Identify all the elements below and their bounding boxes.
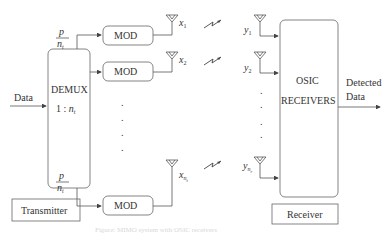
tx-antenna-label-1: x1 (178, 17, 186, 29)
svg-text:ynr: ynr (242, 160, 252, 174)
svg-text:MOD: MOD (114, 30, 137, 41)
svg-text:.: . (260, 85, 263, 96)
receiver-label-box: Receiver (272, 204, 338, 224)
rate-fraction-bottom: p nt (56, 170, 69, 194)
antenna-icon (166, 52, 178, 59)
detected-data-output: Detected Data (338, 77, 382, 107)
tx-antenna-label-2: x2 (178, 54, 186, 66)
antenna-icon (166, 15, 178, 22)
svg-text:.: . (260, 116, 263, 127)
svg-text:y1: y1 (243, 24, 251, 36)
svg-text:.: . (260, 129, 263, 140)
svg-text:Data: Data (346, 91, 365, 102)
diagram-canvas: Data DEMUX 1 : nt p nt p nt MOD (0, 0, 391, 235)
rx-antenna-2: y2 (243, 52, 278, 74)
rx-antenna-1: y1 (243, 15, 278, 36)
mod-block-2: MOD x2 (103, 52, 186, 81)
svg-text:OSIC: OSIC (296, 75, 319, 86)
channel (204, 20, 221, 169)
demux-block: DEMUX 1 : nt (48, 49, 90, 188)
svg-text:y2: y2 (243, 62, 251, 74)
svg-text:.: . (121, 112, 124, 123)
rx-antenna-nr: ynr (242, 157, 278, 178)
rate-fraction-top: p nt (56, 26, 69, 50)
tx-antenna-label-nt: xnt (178, 169, 188, 183)
figure-caption: Figure: MIMO system with OSIC receivers (95, 226, 217, 234)
osic-receivers-block: OSIC RECEIVERS (280, 20, 338, 197)
demux-to-mod3-arrow (77, 188, 101, 206)
svg-text:.: . (121, 97, 124, 108)
svg-text:nt: nt (57, 182, 64, 194)
svg-text:Receiver: Receiver (287, 209, 323, 220)
antenna-icon (254, 52, 266, 59)
mod-ellipsis: . . . . (121, 97, 124, 153)
antenna-icon (254, 15, 266, 22)
svg-text:.: . (260, 99, 263, 110)
svg-text:MOD: MOD (114, 66, 137, 77)
svg-text:.: . (121, 127, 124, 138)
data-input-label: Data (14, 92, 33, 103)
demux-to-mod1-arrow (77, 35, 101, 49)
transmitter: Data DEMUX 1 : nt p nt p nt MOD (10, 15, 188, 221)
svg-text:p: p (58, 26, 64, 37)
rx-ellipsis: . . . . (260, 85, 263, 140)
mod-block-1: MOD x1 (103, 15, 186, 45)
svg-text:RECEIVERS: RECEIVERS (281, 95, 335, 106)
svg-text:Detected: Detected (346, 77, 382, 88)
svg-text:MOD: MOD (114, 200, 137, 211)
svg-text:.: . (121, 142, 124, 153)
demux-label: DEMUX (51, 84, 88, 95)
receiver: y1 y2 . . . . ynr OSIC RECEIVERS D (242, 15, 382, 224)
antenna-icon (254, 157, 266, 164)
svg-text:p: p (58, 170, 64, 181)
svg-text:Transmitter: Transmitter (21, 205, 68, 216)
antenna-icon (166, 160, 178, 167)
mod-block-nt: MOD xnt (103, 160, 188, 215)
demux-ratio: 1 : nt (56, 103, 76, 115)
transmitter-label-box: Transmitter (12, 199, 80, 221)
svg-text:nt: nt (57, 38, 64, 50)
